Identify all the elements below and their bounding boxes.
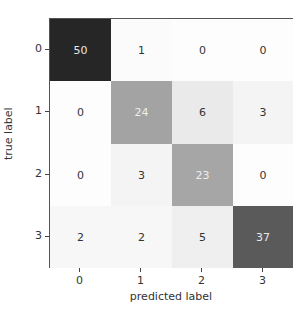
cell-1-3: 3	[233, 81, 293, 144]
x-tick-label-3: 3	[259, 274, 266, 287]
y-tick-mark-3	[45, 236, 49, 237]
cell-3-2: 5	[172, 206, 233, 268]
y-tick-mark-0	[45, 49, 49, 50]
cell-3-3: 37	[233, 206, 293, 268]
cell-1-2: 6	[172, 81, 233, 144]
y-axis-label: true label	[2, 107, 15, 160]
cell-0-2: 0	[172, 19, 233, 81]
x-tick-mark-3	[262, 268, 263, 272]
x-axis-label: predicted label	[49, 290, 293, 303]
plot-area: 50 1 0 0 0 24 6 3 0 3 23 0 2 2 5 37	[49, 18, 293, 268]
cell-1-1: 24	[111, 81, 172, 144]
cell-2-3: 0	[233, 144, 293, 206]
y-tick-label-3: 3	[35, 229, 42, 242]
x-tick-label-0: 0	[76, 274, 83, 287]
x-tick-mark-0	[79, 268, 80, 272]
y-tick-label-0: 0	[35, 42, 42, 55]
y-tick-mark-2	[45, 174, 49, 175]
x-tick-label-1: 1	[137, 274, 144, 287]
cell-3-1: 2	[111, 206, 172, 268]
cell-1-0: 0	[50, 81, 111, 144]
x-tick-mark-2	[201, 268, 202, 272]
cell-2-2: 23	[172, 144, 233, 206]
x-tick-mark-1	[140, 268, 141, 272]
cell-0-1: 1	[111, 19, 172, 81]
cell-0-0: 50	[50, 19, 111, 81]
cell-3-0: 2	[50, 206, 111, 268]
y-tick-label-2: 2	[35, 167, 42, 180]
cell-2-1: 3	[111, 144, 172, 206]
y-tick-mark-1	[45, 111, 49, 112]
x-tick-label-2: 2	[198, 274, 205, 287]
cell-0-3: 0	[233, 19, 293, 81]
y-tick-label-1: 1	[35, 104, 42, 117]
cell-2-0: 0	[50, 144, 111, 206]
